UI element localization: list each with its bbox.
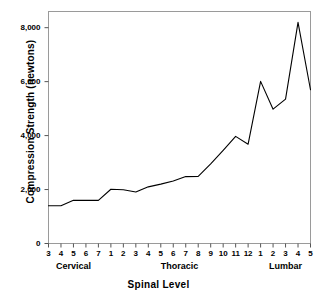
region-label: Lumbar — [246, 261, 317, 271]
x-tick-label: 5 — [302, 249, 318, 258]
region-label: Cervical — [33, 261, 113, 271]
y-tick-label: 8,000 — [1, 23, 41, 32]
y-tick-label: 6,000 — [1, 77, 41, 86]
x-axis-ticks — [49, 244, 311, 248]
y-tick-label: 0 — [1, 239, 41, 248]
y-tick-label: 2,000 — [1, 185, 41, 194]
y-axis-ticks — [45, 28, 49, 244]
chart-figure: Compression Strength (newtons) Spinal Le… — [0, 0, 317, 298]
region-label: Thoracic — [140, 261, 220, 271]
y-tick-label: 4,000 — [1, 131, 41, 140]
plot-frame — [49, 12, 311, 244]
